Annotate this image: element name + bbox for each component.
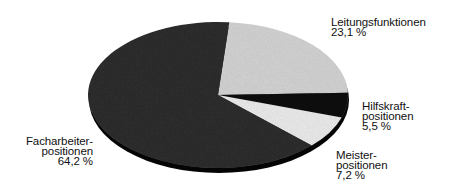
pie-slice-leitungsfunktionen xyxy=(218,22,348,95)
label-facharbeiter-value: 64,2 % xyxy=(20,156,93,166)
label-facharbeiterpositionen: Facharbeiter- positionen 64,2 % xyxy=(20,136,93,166)
pie-slices xyxy=(88,22,348,168)
label-leitungsfunktionen: Leitungsfunktionen 23,1 % xyxy=(331,17,426,37)
label-hilfskraftpositionen: Hilfskraft- positionen 5,5 % xyxy=(362,101,413,131)
label-hilfskraft-value: 5,5 % xyxy=(362,121,413,131)
label-leitung-value: 23,1 % xyxy=(331,27,426,37)
label-meister-value: 7,2 % xyxy=(336,170,387,180)
label-meisterpositionen: Meister- positionen 7,2 % xyxy=(336,150,387,180)
